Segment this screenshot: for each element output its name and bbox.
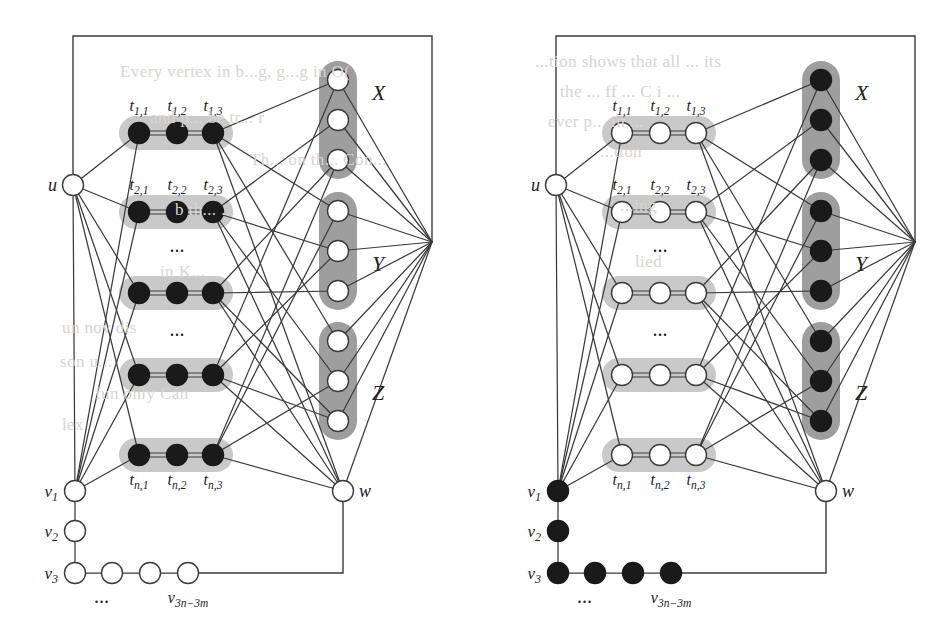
triangle-vertex[interactable]: [129, 445, 150, 466]
triangle-vertex[interactable]: [167, 365, 188, 386]
set-vertex[interactable]: [328, 201, 349, 222]
vertex-v1[interactable]: [548, 481, 569, 502]
set-vertex[interactable]: [811, 331, 832, 352]
bleed-text: ever p... in ...: [548, 112, 644, 132]
label-sub: 2,3: [208, 184, 223, 197]
bleed-text: the ... ff ... C i ...: [560, 82, 680, 102]
graph-figure: t1,1t1,2t1,3t2,1t2,2t2,3tn,1tn,2tn,3XYZu…: [0, 0, 943, 631]
triangle-vertex[interactable]: [686, 445, 707, 466]
label-sub: 2,1: [134, 184, 148, 197]
path-vertex[interactable]: [623, 563, 644, 584]
vertex-label-v1: v1: [44, 482, 58, 504]
triangle-vertex[interactable]: [129, 123, 150, 144]
vertex-label-v2: v2: [527, 522, 541, 544]
vertex-v3[interactable]: [65, 563, 86, 584]
triangle-vertex[interactable]: [686, 123, 707, 144]
bleed-text: Th... on th... Con...: [250, 150, 387, 170]
set-group-label-X: X: [854, 80, 870, 105]
vertex-v3[interactable]: [548, 563, 569, 584]
triangle-vertex[interactable]: [650, 365, 671, 386]
set-vertex[interactable]: [328, 371, 349, 392]
triangle-vertex[interactable]: [167, 445, 188, 466]
label-sub: 2,2: [655, 184, 670, 197]
triangle-vertex[interactable]: [612, 445, 633, 466]
triangle-label: tn,3: [204, 471, 223, 492]
triangle-vertex[interactable]: [650, 283, 671, 304]
bottom-return-wire: [671, 491, 826, 573]
triangle-vertex[interactable]: [129, 202, 150, 223]
triangle-vertex[interactable]: [203, 283, 224, 304]
label-sub: n,1: [134, 479, 148, 492]
set-vertex[interactable]: [811, 201, 832, 222]
triangle-label: t1,3: [687, 97, 706, 118]
label-sub: 2,2: [172, 184, 187, 197]
edge-u-v1: [556, 185, 558, 491]
path-vertex[interactable]: [585, 563, 606, 584]
triangle-vertex[interactable]: [686, 365, 707, 386]
set-vertex[interactable]: [328, 241, 349, 262]
label-sub: 3: [51, 572, 58, 586]
path-vertex[interactable]: [661, 563, 682, 584]
bleed-text: son u...: [60, 352, 112, 372]
triangle-label: t2,1: [613, 176, 632, 197]
path-vertex[interactable]: [140, 563, 161, 584]
set-vertex[interactable]: [811, 70, 832, 91]
vertex-u[interactable]: [63, 175, 84, 196]
vertex-u[interactable]: [546, 175, 567, 196]
triangle-vertex[interactable]: [612, 365, 633, 386]
triangle-label: t2,3: [204, 176, 223, 197]
bleed-text: Every vertex in b...g, g...g in O(: [120, 62, 350, 82]
vertex-label-w: w: [359, 481, 371, 501]
set-vertex[interactable]: [811, 371, 832, 392]
triangle-vertex[interactable]: [203, 365, 224, 386]
set-vertex[interactable]: [328, 331, 349, 352]
triangle-vertex[interactable]: [203, 445, 224, 466]
edge-u-v1: [73, 185, 75, 491]
set-vertex[interactable]: [811, 281, 832, 302]
triangle-vertex[interactable]: [612, 283, 633, 304]
bleed-text: un nov dis: [62, 318, 137, 338]
label-sub: 2: [535, 530, 541, 544]
triangle-vertex[interactable]: [650, 445, 671, 466]
vertex-v2[interactable]: [548, 521, 569, 542]
set-group-label-Y: Y: [372, 251, 387, 276]
vertex-v2[interactable]: [65, 521, 86, 542]
label-sub: 3: [534, 572, 541, 586]
set-vertex[interactable]: [811, 241, 832, 262]
bleed-text: b th... ...: [175, 200, 235, 220]
bleed-text: lied: [635, 252, 662, 272]
set-vertex[interactable]: [811, 150, 832, 171]
set-vertex[interactable]: [811, 411, 832, 432]
edge-triangle-w: [696, 133, 826, 491]
triangle-label: t2,1: [130, 176, 149, 197]
vertex-w[interactable]: [816, 481, 837, 502]
triangle-vertex[interactable]: [167, 283, 188, 304]
triangle-vertex[interactable]: [686, 202, 707, 223]
triangle-label: t1,1: [130, 97, 149, 118]
label-sub: 2,3: [691, 184, 706, 197]
set-vertex[interactable]: [328, 281, 349, 302]
triangle-vertex[interactable]: [129, 365, 150, 386]
bleed-text: ...tion shows that all ... its: [535, 52, 721, 72]
vertex-label-u: u: [531, 175, 540, 195]
triangle-vertex[interactable]: [650, 123, 671, 144]
label-sub: 1: [52, 490, 58, 504]
set-vertex[interactable]: [328, 411, 349, 432]
path-ellipsis: ...: [94, 585, 109, 607]
set-vertex[interactable]: [811, 110, 832, 131]
triangle-vertex[interactable]: [129, 283, 150, 304]
path-vertex[interactable]: [102, 563, 123, 584]
row-ellipsis: ...: [653, 318, 668, 340]
vertex-w[interactable]: [333, 481, 354, 502]
triangle-vertex[interactable]: [686, 283, 707, 304]
path-vertex[interactable]: [178, 563, 199, 584]
vertex-label-u: u: [48, 175, 57, 195]
label-sub: 1,1: [134, 105, 148, 118]
vertex-v1[interactable]: [65, 481, 86, 502]
triangle-label: tn,1: [130, 471, 149, 492]
vertex-label-v3: v3: [527, 564, 541, 586]
bleed-text: in K...: [160, 262, 205, 282]
set-vertex[interactable]: [328, 110, 349, 131]
label-sub: 3n−3m: [657, 597, 691, 609]
bleed-text: fun only Can: [95, 384, 189, 404]
